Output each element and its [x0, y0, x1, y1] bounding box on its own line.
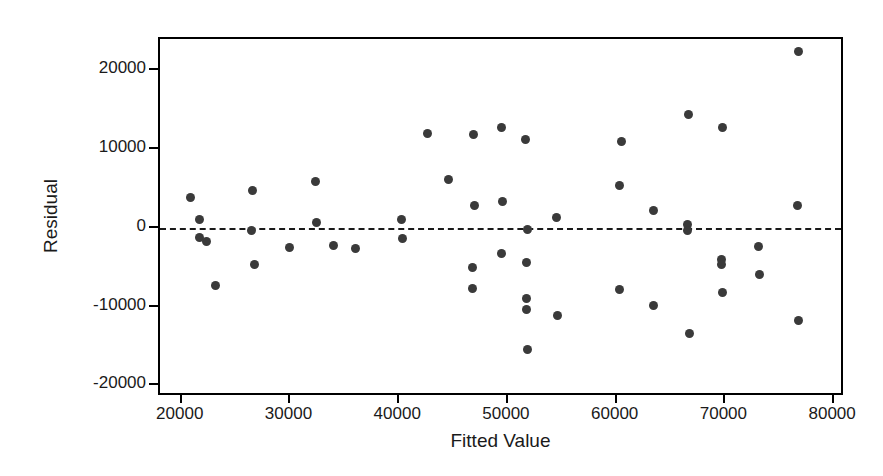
- data-point: [195, 215, 204, 224]
- x-tick-label: 80000: [808, 404, 855, 424]
- x-tick-mark: [506, 395, 508, 403]
- data-point: [649, 301, 658, 310]
- data-point: [523, 345, 532, 354]
- y-tick-label: 20000: [99, 58, 146, 78]
- data-point: [312, 218, 321, 227]
- data-point: [553, 311, 562, 320]
- data-point: [397, 215, 406, 224]
- y-tick-mark: [149, 226, 158, 228]
- data-point: [617, 137, 626, 146]
- x-axis-label: Fitted Value: [158, 430, 843, 452]
- data-point: [497, 123, 506, 132]
- x-tick-label: 60000: [591, 404, 638, 424]
- data-point: [523, 225, 532, 234]
- data-point: [351, 244, 360, 253]
- x-tick-label: 50000: [482, 404, 529, 424]
- data-point: [615, 285, 624, 294]
- data-point: [468, 284, 477, 293]
- x-tick-label: 70000: [700, 404, 747, 424]
- data-point: [329, 241, 338, 250]
- data-point: [755, 270, 764, 279]
- data-point: [684, 110, 693, 119]
- data-point: [754, 242, 763, 251]
- x-tick-mark: [397, 395, 399, 403]
- y-axis-label: Residual: [40, 179, 62, 253]
- x-tick-mark: [832, 395, 834, 403]
- data-point: [211, 281, 220, 290]
- data-point: [470, 201, 479, 210]
- data-point: [285, 243, 294, 252]
- data-point: [497, 249, 506, 258]
- data-point: [522, 294, 531, 303]
- x-tick-mark: [288, 395, 290, 403]
- plot-area: [158, 37, 843, 395]
- y-tick-label: 0: [137, 216, 146, 236]
- data-point: [521, 135, 530, 144]
- data-point: [311, 177, 320, 186]
- data-point: [717, 260, 726, 269]
- data-point: [794, 47, 803, 56]
- y-tick-label: -10000: [93, 295, 146, 315]
- data-point: [469, 130, 478, 139]
- data-point: [248, 186, 257, 195]
- y-tick-mark: [149, 305, 158, 307]
- data-point: [685, 329, 694, 338]
- residual-scatter-figure: 20000300004000050000600007000080000 2000…: [0, 0, 883, 476]
- data-point: [552, 213, 561, 222]
- data-point: [498, 197, 507, 206]
- data-point: [793, 201, 802, 210]
- x-tick-label: 40000: [374, 404, 421, 424]
- data-point: [186, 193, 195, 202]
- scatter-points-layer: [160, 39, 841, 393]
- x-tick-mark: [615, 395, 617, 403]
- data-point: [250, 260, 259, 269]
- y-tick-label: 10000: [99, 137, 146, 157]
- y-tick-mark: [149, 68, 158, 70]
- data-point: [423, 129, 432, 138]
- data-point: [615, 181, 624, 190]
- data-point: [718, 123, 727, 132]
- chart-title: [0, 0, 883, 6]
- data-point: [202, 237, 211, 246]
- x-tick-mark: [723, 395, 725, 403]
- x-tick-label: 20000: [156, 404, 203, 424]
- y-tick-label: -20000: [93, 373, 146, 393]
- y-tick-mark: [149, 147, 158, 149]
- data-point: [468, 263, 477, 272]
- data-point: [794, 316, 803, 325]
- x-tick-label: 30000: [265, 404, 312, 424]
- data-point: [522, 305, 531, 314]
- y-tick-mark: [149, 383, 158, 385]
- data-point: [247, 226, 256, 235]
- x-tick-mark: [180, 395, 182, 403]
- data-point: [683, 226, 692, 235]
- data-point: [718, 288, 727, 297]
- data-point: [522, 258, 531, 267]
- data-point: [398, 234, 407, 243]
- data-point: [649, 206, 658, 215]
- data-point: [444, 175, 453, 184]
